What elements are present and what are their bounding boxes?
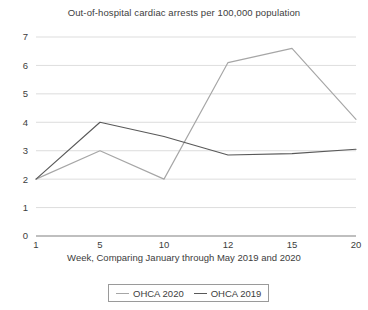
legend-entry-ohca-2020[interactable]: OHCA 2020 [116,288,184,299]
x-axis-tick-label: 1 [33,239,38,250]
x-axis-tick-labels: 1510121520 [33,239,361,250]
x-axis-tick-label: 15 [287,239,298,250]
legend-line-swatch-icon [116,293,129,294]
y-axis-tick-label: 1 [23,202,28,213]
legend-label: OHCA 2020 [133,288,184,299]
data-series [36,48,356,179]
y-axis-tick-label: 5 [23,88,28,99]
x-axis-tick-label: 10 [159,239,170,250]
y-axis-tick-label: 4 [23,117,28,128]
legend-line-swatch-icon [194,293,207,294]
series-line-ohca-2020 [36,48,356,179]
y-axis-tick-label: 7 [23,31,28,42]
y-axis-tick-label: 3 [23,145,28,156]
y-axis-tick-label: 6 [23,60,28,71]
y-axis-tick-label: 2 [23,174,28,185]
chart-legend: OHCA 2020OHCA 2019 [108,284,269,302]
chart-figure: Out-of-hospital cardiac arrests per 100,… [0,0,368,310]
legend-entry-ohca-2019[interactable]: OHCA 2019 [194,288,262,299]
x-axis-title: Week, Comparing January through May 2019… [0,252,368,263]
line-chart-plot: 01234567 1510121520 [0,0,368,250]
x-axis-tick-label: 12 [223,239,234,250]
y-axis-tick-label: 0 [23,230,28,241]
x-axis-tick-label: 20 [351,239,362,250]
legend-label: OHCA 2019 [211,288,262,299]
x-axis-tick-label: 5 [97,239,102,250]
y-axis-tick-labels: 01234567 [23,31,28,241]
